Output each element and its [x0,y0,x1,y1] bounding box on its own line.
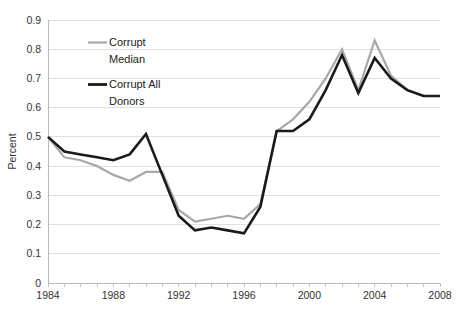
legend-label-line2: Donors [109,95,145,107]
legend-label-line2: Median [109,53,145,65]
chart-container: 00.10.20.30.40.50.60.70.80.9 19841988199… [0,0,463,319]
chart-legend: CorruptMedianCorrupt AllDonors [88,36,160,107]
y-axis-tick-labels: 00.10.20.30.40.50.60.70.80.9 [26,14,41,289]
legend-item: CorruptMedian [88,36,146,65]
x-axis-tick-labels: 1984198819921996200020042008 [36,289,452,301]
series-line-2 [48,55,440,233]
y-axis-tick-label: 0.2 [26,218,41,230]
x-axis-tick-label: 1996 [232,289,256,301]
y-axis-tick-label: 0.1 [26,247,41,259]
y-axis-title-text: Percent [6,133,18,169]
y-axis-tick-label: 0.8 [26,43,41,55]
x-axis-tick-label: 2000 [298,289,322,301]
y-axis-tick-label: 0.3 [26,189,41,201]
x-axis-tick-label: 1984 [36,289,60,301]
x-axis-tick-label: 1988 [102,289,126,301]
x-axis-tick-label: 1992 [167,289,191,301]
y-axis-title: Percent [6,133,18,169]
x-axis-tick-label: 2008 [428,289,452,301]
y-axis-tick-label: 0 [35,277,41,289]
legend-label-line1: Corrupt All [109,78,160,90]
y-axis-tick-label: 0.9 [26,14,41,26]
x-axis-ticks [48,283,440,287]
x-axis-line [48,20,440,283]
y-axis-tick-label: 0.4 [26,160,41,172]
y-axis-tick-label: 0.7 [26,72,41,84]
y-axis-tick-label: 0.5 [26,130,41,142]
line-chart: 00.10.20.30.40.50.60.70.80.9 19841988199… [0,0,463,319]
x-axis-tick-label: 2004 [363,289,387,301]
gridlines [48,20,440,283]
legend-item: Corrupt AllDonors [88,78,160,107]
y-axis-tick-label: 0.6 [26,101,41,113]
legend-label-line1: Corrupt [109,36,146,48]
